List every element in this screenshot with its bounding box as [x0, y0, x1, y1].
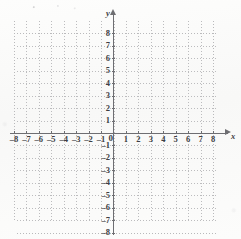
- y-axis-tick: [112, 170, 115, 171]
- y-axis-tick: [112, 145, 115, 146]
- gridline-horizontal: [17, 183, 216, 184]
- y-axis-tick: [112, 195, 115, 196]
- y-axis-tick: [112, 96, 115, 97]
- y-tick-label: –6: [96, 203, 110, 212]
- gridline-horizontal: [17, 121, 216, 122]
- y-tick-label: –2: [96, 153, 110, 162]
- gridline-horizontal: [17, 158, 216, 159]
- y-axis-tick: [112, 58, 115, 59]
- y-tick-label: 8: [96, 29, 110, 38]
- gridline-horizontal: [17, 195, 216, 196]
- x-tick-label: 8: [206, 135, 220, 144]
- gridline-horizontal: [17, 145, 216, 146]
- y-tick-label: 4: [96, 79, 110, 88]
- y-axis-tick: [112, 233, 115, 234]
- y-tick-label: 1: [96, 116, 110, 125]
- y-axis-tick: [112, 46, 115, 47]
- y-tick-label: –4: [96, 178, 110, 187]
- y-tick-label: 5: [96, 66, 110, 75]
- y-tick-label: –7: [96, 216, 110, 225]
- gridline-horizontal: [17, 83, 216, 84]
- y-tick-label: 7: [96, 41, 110, 50]
- gridline-horizontal: [17, 208, 216, 209]
- gridline-horizontal: [17, 170, 216, 171]
- coordinate-grid-figure: –8–7–6–5–4–3–2–112345678–8–7–6–5–4–3–2–1…: [0, 0, 241, 239]
- y-tick-label: –8: [96, 228, 110, 237]
- y-tick-label: 3: [96, 91, 110, 100]
- grid-horizontal-lines: [17, 21, 216, 220]
- gridline-horizontal: [17, 96, 216, 97]
- gridline-horizontal: [17, 233, 216, 234]
- y-axis-tick: [112, 83, 115, 84]
- y-axis-line: [113, 11, 114, 235]
- grid-area: [17, 21, 216, 220]
- y-axis-arrow-icon: [110, 9, 116, 15]
- gridline-horizontal: [17, 108, 216, 109]
- y-axis-tick: [112, 158, 115, 159]
- gridline-horizontal: [17, 33, 216, 34]
- gridline-horizontal: [17, 71, 216, 72]
- gridline-horizontal: [17, 46, 216, 47]
- y-axis-tick: [112, 183, 115, 184]
- y-tick-label: –3: [96, 166, 110, 175]
- origin-label: 0: [103, 134, 113, 143]
- y-tick-label: –5: [96, 191, 110, 200]
- y-axis-tick: [112, 208, 115, 209]
- y-axis-tick: [112, 108, 115, 109]
- y-tick-label: 6: [96, 54, 110, 63]
- gridline-vertical: [14, 21, 15, 220]
- y-tick-label: 2: [96, 104, 110, 113]
- y-axis-tick: [112, 33, 115, 34]
- y-axis-tick: [112, 71, 115, 72]
- gridline-horizontal: [17, 58, 216, 59]
- gridline-horizontal: [17, 220, 216, 221]
- y-axis-tick: [112, 220, 115, 221]
- x-axis-name-label: x: [231, 131, 235, 141]
- y-axis-name-label: y: [106, 8, 110, 18]
- y-axis-tick: [112, 121, 115, 122]
